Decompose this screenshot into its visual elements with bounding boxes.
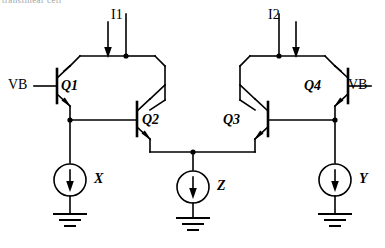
label-vb-right: VB: [348, 78, 367, 92]
current-source-i2-arrow: [292, 22, 300, 58]
q2-collector-up: [150, 85, 165, 99]
label-y: Y: [359, 172, 368, 186]
label-q1: Q1: [61, 79, 78, 93]
junction-node-z: [190, 149, 195, 154]
junction-node-y: [332, 117, 337, 122]
current-source-i1-arrow: [104, 22, 112, 58]
junction-i1-top: [123, 53, 128, 58]
junction-node-x: [67, 117, 72, 122]
label-q4: Q4: [304, 79, 321, 93]
label-q3: Q3: [223, 113, 240, 127]
ground-z: [177, 218, 209, 230]
label-i2: I2: [268, 8, 280, 22]
label-x: X: [94, 172, 103, 186]
circuit-schematic: [0, 0, 385, 248]
y-source-arrow-head: [331, 181, 339, 192]
junction-dots: [67, 53, 337, 154]
junction-i2-top: [276, 53, 281, 58]
q2-collector-lead: [155, 56, 165, 66]
q1-collector-lead: [70, 56, 80, 66]
label-vb-left: VB: [8, 78, 27, 92]
schematic-canvas: translinear cell: [0, 0, 385, 248]
label-z: Z: [217, 179, 226, 193]
q4-collector-lead: [325, 56, 335, 66]
q3-collector-up: [240, 85, 255, 99]
ground-y: [319, 214, 351, 226]
x-source-arrow-head: [66, 181, 74, 192]
q2-collector-lead-2: [150, 100, 165, 110]
ground-x: [54, 214, 86, 226]
q3-collector-lead: [240, 56, 250, 66]
z-source-arrow-head: [189, 188, 197, 199]
label-i1: I1: [111, 8, 123, 22]
q3-collector-lead-2: [240, 100, 255, 110]
label-q2: Q2: [142, 113, 159, 127]
transistor-q3: [240, 85, 335, 141]
